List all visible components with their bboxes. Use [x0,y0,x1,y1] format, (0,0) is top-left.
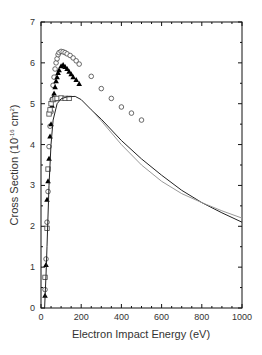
triangle-marker [51,91,57,96]
square-marker [48,108,52,112]
circle-marker [89,74,94,79]
circle-marker [139,118,144,123]
triangle-marker [46,156,52,161]
y-tick-label: 2 [30,221,35,231]
open-circles-series [43,49,144,292]
y-axis-title: Cross Section (10-16 cm2) [8,105,20,226]
circle-marker [53,67,58,72]
square-marker [45,226,49,230]
y-tick-label: 6 [30,58,35,68]
circle-marker [77,62,82,67]
x-tick-label: 800 [194,312,209,322]
y-tick-label: 5 [30,99,35,109]
x-axis-title: Electron Impact Energy (eV) [72,328,210,340]
triangle-marker [45,178,51,183]
x-tick-label: 400 [114,312,129,322]
y-tick-label: 1 [30,262,35,272]
cross-section-chart: 0200400600800100001234567 Electron Impac… [0,0,262,355]
square-marker [43,275,47,279]
circle-marker [45,220,50,225]
circle-marker [109,96,114,101]
x-tick-label: 1000 [232,312,252,322]
y-tick-label: 0 [30,303,35,313]
plot-series [42,49,242,308]
y-tick-label: 3 [30,180,35,190]
theory-dark-line--series [45,96,242,308]
circle-marker [99,86,104,91]
x-tick-label: 200 [74,312,89,322]
x-tick-label: 0 [38,312,43,322]
y-tick-label: 4 [30,140,35,150]
x-tick-label: 600 [154,312,169,322]
circle-marker [119,105,124,110]
y-tick-label: 7 [30,17,35,27]
circle-marker [129,111,134,116]
theory-light-line--series [91,110,242,218]
circle-marker [46,189,51,194]
